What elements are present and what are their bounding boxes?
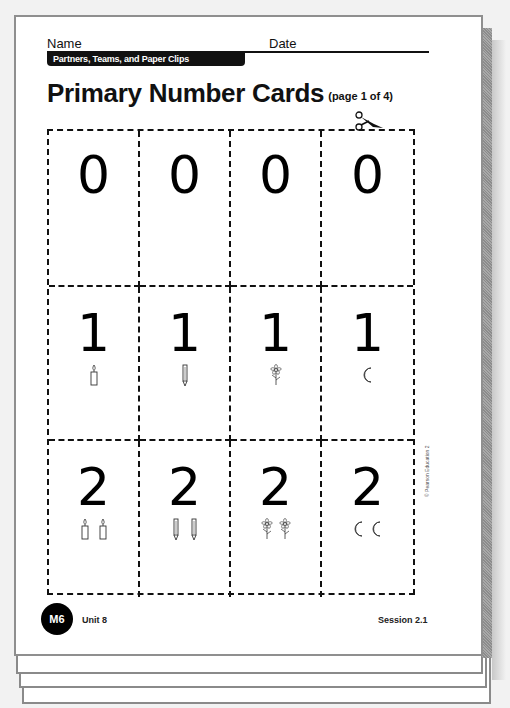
flower-icon [260,517,274,541]
number-card: 0 [140,131,231,287]
card-number: 2 [77,461,110,513]
number-card: 1 [140,287,231,441]
card-pictures [269,363,283,387]
card-pictures [361,363,375,387]
number-card: 2 [49,441,140,597]
card-number: 2 [259,461,292,513]
page-shadow [492,40,506,680]
flower-icon [269,363,283,387]
card-pictures [78,517,110,541]
pencil-icon [187,517,201,541]
number-card: 1 [49,287,140,441]
card-number: 0 [351,149,384,201]
name-label: Name [47,36,82,51]
number-card: 2 [140,441,231,597]
name-date-header: Name Date [47,36,429,52]
number-card: 0 [322,131,413,287]
moon-icon [370,517,384,541]
flower-icon [278,517,292,541]
title-main: Primary Number Cards [47,78,324,108]
candle-icon [96,517,110,541]
number-card: 1 [322,287,413,441]
candle-icon [78,517,92,541]
number-card: 0 [49,131,140,287]
card-grid: 00001 1 1 1 2 2 2 2 [47,129,415,595]
title-sub: (page 1 of 4) [328,90,393,102]
page-title: Primary Number Cards(page 1 of 4) [47,78,393,109]
number-card: 2 [231,441,322,597]
unit-banner: Partners, Teams, and Paper Clips [47,52,245,66]
card-number: 1 [77,307,110,359]
card-number: 0 [168,149,201,201]
worksheet-page: Name Date Partners, Teams, and Paper Cli… [14,15,483,656]
card-number: 1 [168,307,201,359]
session-label: Session 2.1 [378,615,428,625]
number-card: 2 [322,441,413,597]
card-number: 0 [77,149,110,201]
card-number: 1 [259,307,292,359]
card-pictures [260,517,292,541]
number-card: 1 [231,287,322,441]
page-edge-shadow [482,28,492,658]
card-pictures [178,363,192,387]
card-pictures [352,517,384,541]
card-pictures [87,363,101,387]
unit-label: Unit 8 [82,615,107,625]
pencil-icon [178,363,192,387]
card-number: 0 [259,149,292,201]
candle-icon [87,363,101,387]
number-card: 0 [231,131,322,287]
date-label: Date [269,36,296,51]
module-badge: M6 [41,603,73,635]
moon-icon [361,363,375,387]
card-number: 1 [351,307,384,359]
card-number: 2 [351,461,384,513]
card-number: 2 [168,461,201,513]
card-pictures [169,517,201,541]
moon-icon [352,517,366,541]
pencil-icon [169,517,183,541]
copyright-notice: © Pearson Education 2 [424,446,430,498]
